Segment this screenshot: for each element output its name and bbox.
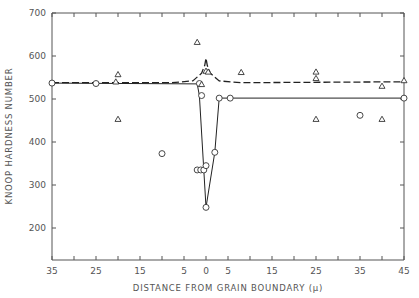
ticks: 35251550515253545200300400500600700 [29, 8, 410, 276]
circle-marker [212, 149, 218, 155]
y-tick-label: 600 [29, 51, 46, 61]
circle-marker [93, 81, 99, 87]
x-tick-label: 0 [203, 266, 209, 276]
circle-marker [203, 163, 209, 169]
x-tick-label: 5 [181, 266, 187, 276]
data-markers [49, 39, 407, 210]
fit-lines [52, 58, 404, 207]
triangle-marker [379, 116, 385, 121]
y-tick-label: 400 [29, 137, 46, 147]
knoop-hardness-chart: 35251550515253545200300400500600700 DIST… [0, 0, 419, 298]
solid-fit-line [52, 83, 404, 207]
x-axis-label: DISTANCE FROM GRAIN BOUNDARY (μ) [133, 283, 323, 293]
triangle-marker [194, 39, 200, 44]
triangle-marker [379, 83, 385, 88]
y-tick-label: 200 [29, 223, 46, 233]
dashed-fit-line [52, 58, 404, 82]
x-tick-label: 15 [134, 266, 145, 276]
circle-marker [199, 93, 205, 99]
x-tick-label: 25 [310, 266, 321, 276]
x-tick-label: 35 [354, 266, 365, 276]
y-tick-label: 700 [29, 8, 46, 18]
x-tick-label: 25 [90, 266, 101, 276]
plot-area: 35251550515253545200300400500600700 DIST… [0, 0, 419, 298]
triangle-marker [115, 116, 121, 121]
triangle-marker [313, 75, 319, 80]
y-tick-label: 300 [29, 180, 46, 190]
circle-marker [216, 95, 222, 101]
y-tick-label: 500 [29, 94, 46, 104]
triangle-marker [313, 116, 319, 121]
circle-marker [159, 151, 165, 157]
circle-marker [203, 204, 209, 210]
x-tick-label: 5 [225, 266, 231, 276]
triangle-marker [313, 69, 319, 74]
circle-marker [401, 95, 407, 101]
x-tick-label: 15 [266, 266, 277, 276]
x-tick-label: 45 [398, 266, 409, 276]
circle-marker [357, 112, 363, 118]
triangle-marker [238, 69, 244, 74]
y-axis-label: KNOOP HARDNESS NUMBER [4, 68, 14, 205]
x-tick-label: 35 [46, 266, 57, 276]
axes [52, 13, 404, 260]
circle-marker [49, 80, 55, 86]
triangle-marker [113, 79, 119, 84]
triangle-marker [401, 78, 407, 83]
triangle-marker [115, 71, 121, 76]
circle-marker [227, 95, 233, 101]
